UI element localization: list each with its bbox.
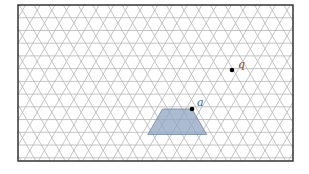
grid-lines	[0, 0, 309, 174]
grid-frame	[18, 5, 293, 161]
point-q-dot	[230, 68, 235, 73]
point-a-dot	[190, 107, 195, 112]
point-q-label: q	[238, 58, 245, 71]
point-a-label: a	[197, 96, 204, 109]
triangular-grid-diagram: aq	[0, 0, 309, 174]
shaded-trapezoid	[148, 109, 207, 135]
